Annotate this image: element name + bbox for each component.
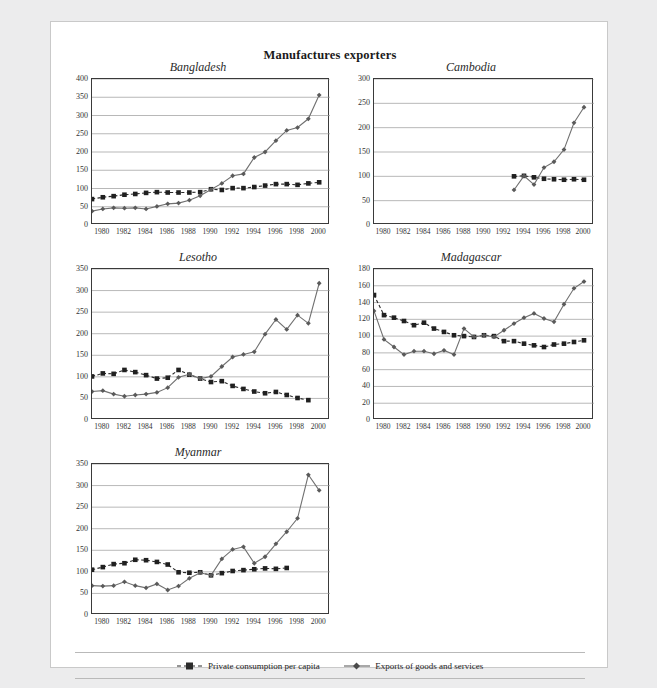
legend-label-private-consumption: Private consumption per capita: [208, 661, 320, 671]
diamond-marker: [241, 352, 246, 357]
square-marker: [133, 192, 138, 197]
x-tick-label: 1994: [246, 617, 261, 626]
figure-panel: Manufactures exporters Bangladesh0501001…: [50, 21, 608, 668]
x-tick-label: 1982: [116, 422, 131, 431]
y-tick-label: 350: [58, 264, 88, 273]
square-marker: [92, 567, 94, 572]
square-marker: [144, 558, 149, 563]
x-tick-label: 1990: [203, 227, 218, 236]
square-marker: [274, 390, 279, 395]
diamond-marker: [122, 579, 127, 584]
square-marker-icon: [177, 661, 203, 671]
square-marker: [402, 319, 407, 324]
x-tick-label: 1986: [436, 422, 451, 431]
plot-svg: [92, 269, 330, 420]
chart-lesotho: Lesotho050100150200250300350198019821984…: [57, 250, 339, 445]
diamond-marker: [542, 165, 547, 170]
x-tick-label: 2000: [311, 617, 326, 626]
square-marker: [176, 368, 181, 373]
square-marker: [165, 375, 170, 380]
square-marker: [532, 343, 537, 348]
x-tick-label: 1990: [203, 617, 218, 626]
x-tick-label: 1988: [456, 227, 471, 236]
legend-item-exports: Exports of goods and services: [344, 660, 483, 671]
x-axis-labels: 1980198219841986198819901992199419961998…: [373, 422, 593, 436]
x-tick-label: 1980: [376, 227, 391, 236]
y-axis-labels: 050100150200250300350: [57, 250, 88, 445]
x-tick-label: 1992: [496, 227, 511, 236]
y-tick-label: 350: [58, 459, 88, 468]
y-tick-label: 100: [58, 183, 88, 192]
x-tick-label: 1998: [289, 227, 304, 236]
square-marker: [220, 379, 225, 384]
x-tick-label: 1998: [289, 617, 304, 626]
x-tick-label: 1992: [224, 617, 239, 626]
y-tick-label: 200: [58, 328, 88, 337]
y-tick-label: 150: [340, 147, 370, 156]
square-marker: [144, 373, 149, 378]
square-marker: [422, 320, 427, 325]
square-marker: [111, 194, 116, 199]
x-tick-label: 1986: [159, 227, 174, 236]
y-tick-label: 120: [340, 314, 370, 323]
y-tick-label: 60: [340, 364, 370, 373]
square-marker: [306, 398, 311, 403]
y-tick-label: 20: [340, 398, 370, 407]
plot-area: [373, 78, 593, 224]
y-tick-label: 50: [58, 588, 88, 597]
chart-title: Cambodia: [339, 60, 603, 75]
chart-cambodia: Cambodia05010015020025030019801982198419…: [339, 60, 603, 250]
x-tick-label: 1986: [159, 617, 174, 626]
square-marker: [133, 370, 138, 375]
y-tick-label: 250: [340, 98, 370, 107]
square-marker: [263, 391, 268, 396]
y-tick-label: 300: [58, 110, 88, 119]
x-tick-label: 1984: [416, 422, 431, 431]
x-tick-label: 1990: [476, 422, 491, 431]
diamond-marker: [144, 207, 149, 212]
square-marker: [209, 380, 214, 385]
x-tick-label: 1998: [556, 227, 571, 236]
y-axis-labels: 050100150200250300350: [57, 445, 88, 640]
y-tick-label: 80: [340, 347, 370, 356]
square-marker: [165, 562, 170, 567]
plot-svg: [374, 79, 594, 225]
x-tick-label: 1990: [203, 422, 218, 431]
square-marker: [220, 571, 225, 576]
square-marker: [92, 374, 94, 379]
square-marker: [176, 190, 181, 195]
square-marker: [252, 389, 257, 394]
square-marker: [220, 188, 225, 193]
x-tick-label: 1998: [556, 422, 571, 431]
diamond-marker: [133, 205, 138, 210]
x-tick-label: 1984: [138, 227, 153, 236]
square-marker: [284, 393, 289, 398]
x-tick-label: 1982: [116, 227, 131, 236]
diamond-marker: [133, 393, 138, 398]
y-tick-label: 250: [58, 307, 88, 316]
square-marker: [306, 181, 311, 186]
y-tick-label: 200: [58, 147, 88, 156]
y-tick-label: 400: [58, 74, 88, 83]
square-marker: [432, 326, 437, 331]
square-marker: [187, 190, 192, 195]
square-marker: [562, 177, 567, 182]
diamond-marker-icon: [344, 661, 370, 671]
plot-svg: [374, 269, 594, 420]
diamond-marker: [187, 198, 192, 203]
x-axis-labels: 1980198219841986198819901992199419961998…: [91, 617, 329, 631]
x-tick-label: 2000: [311, 422, 326, 431]
diamond-marker: [144, 585, 149, 590]
square-marker: [317, 180, 322, 185]
square-marker: [111, 372, 116, 377]
diamond-marker: [532, 311, 537, 316]
diamond-marker: [92, 209, 94, 214]
y-tick-label: 150: [58, 350, 88, 359]
y-tick-label: 0: [340, 415, 370, 424]
square-marker: [263, 566, 268, 571]
y-tick-label: 200: [58, 523, 88, 532]
x-tick-label: 1984: [138, 422, 153, 431]
y-tick-label: 50: [58, 201, 88, 210]
x-tick-label: 1994: [516, 227, 531, 236]
x-tick-label: 1984: [138, 617, 153, 626]
